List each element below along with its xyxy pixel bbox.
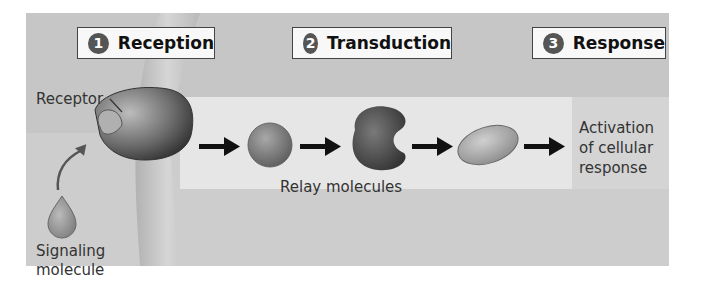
step-number-badge: 1 xyxy=(88,33,109,54)
relay-molecule-kidney xyxy=(353,106,406,170)
response-label-line3: response xyxy=(579,159,647,178)
signaling-label-line2: molecule xyxy=(36,261,104,280)
signaling-molecule xyxy=(48,196,76,238)
step-label: Reception xyxy=(118,33,214,53)
step-reception: 1 Reception xyxy=(77,27,215,59)
step-label: Response xyxy=(573,33,665,53)
relay-molecule-oval xyxy=(453,118,523,171)
step-number-badge: 2 xyxy=(303,33,318,54)
signaling-label-line1: Signaling xyxy=(36,242,105,261)
step-response: 3 Response xyxy=(532,27,666,59)
step-label: Transduction xyxy=(327,33,451,53)
step-transduction: 2 Transduction xyxy=(292,27,452,59)
response-label-line1: Activation xyxy=(579,119,654,138)
response-label-line2: of cellular xyxy=(579,139,653,158)
relay-label: Relay molecules xyxy=(280,178,402,197)
step-number-badge: 3 xyxy=(543,33,564,54)
relay-molecule-sphere xyxy=(248,123,292,167)
receptor-label: Receptor xyxy=(36,90,103,109)
